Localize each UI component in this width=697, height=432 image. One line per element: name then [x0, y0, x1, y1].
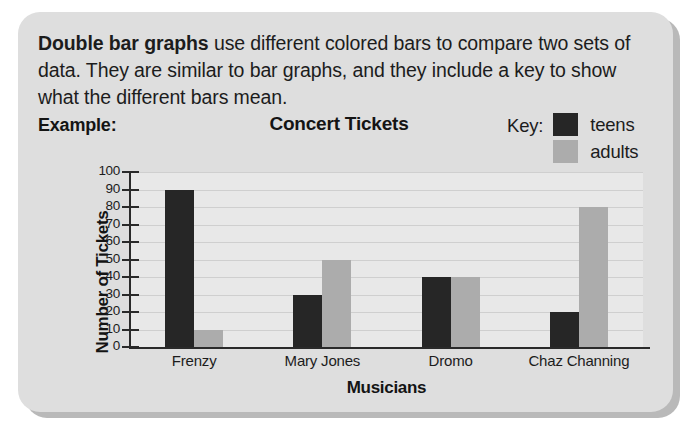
y-axis-tick: [122, 224, 139, 226]
gridline: [130, 172, 643, 173]
y-axis-tick-label: 80: [86, 198, 120, 213]
y-axis-tick-label: 20: [86, 303, 120, 318]
y-axis-tick: [122, 346, 139, 348]
gridline: [130, 190, 643, 191]
chart-title: Concert Tickets: [214, 113, 464, 135]
legend-text-teens: teens: [590, 114, 634, 136]
y-axis-tick-label: 100: [86, 163, 120, 178]
example-label: Example:: [38, 115, 116, 136]
gridline: [130, 277, 643, 278]
gridline: [130, 225, 643, 226]
gridline: [130, 242, 643, 243]
lesson-card: Double bar graphs use different colored …: [18, 12, 673, 412]
double-bar-chart: Number of Tickets 0102030405060708090100…: [36, 160, 676, 412]
x-axis-tick-label: Chaz Channing: [528, 352, 629, 369]
bar-adults-dromo: [451, 277, 480, 347]
y-axis-tick: [122, 206, 139, 208]
x-axis-tick-label: Frenzy: [172, 352, 217, 369]
legend-swatch-teens: [553, 113, 578, 136]
intro-paragraph: Double bar graphs use different colored …: [38, 30, 650, 111]
bar-teens-chaz-channing: [550, 312, 579, 347]
y-axis-tick: [122, 259, 139, 261]
y-axis-tick: [122, 294, 139, 296]
legend-entries: teens adults: [553, 113, 638, 163]
gridline: [130, 207, 643, 208]
y-axis-tick-label: 10: [86, 321, 120, 336]
y-axis-tick-label: 0: [86, 338, 120, 353]
x-axis-tick-label: Dromo: [429, 352, 473, 369]
x-axis-tick-label: Mary Jones: [285, 352, 361, 369]
x-axis-labels: FrenzyMary JonesDromoChaz Channing: [130, 352, 643, 376]
y-axis-labels: 0102030405060708090100: [78, 160, 120, 360]
y-axis-tick: [122, 189, 139, 191]
y-axis-tick-label: 70: [86, 216, 120, 231]
intro-lead: Double bar graphs: [38, 32, 209, 54]
x-axis-line: [129, 347, 650, 349]
gridline: [130, 295, 643, 296]
chart-legend: Key: teens adults: [507, 113, 638, 163]
y-axis-tick: [122, 171, 139, 173]
y-axis-tick-label: 40: [86, 268, 120, 283]
bar-teens-frenzy: [165, 190, 194, 348]
x-axis-title: Musicians: [130, 378, 643, 398]
y-axis-tick: [122, 241, 139, 243]
y-axis-tick: [122, 311, 139, 313]
bar-teens-mary-jones: [293, 295, 322, 348]
gridline: [130, 260, 643, 261]
y-axis-tick-label: 30: [86, 286, 120, 301]
y-axis-tick: [122, 329, 139, 331]
y-axis-tick-label: 50: [86, 251, 120, 266]
plot-area: [130, 172, 643, 347]
legend-label: Key:: [507, 113, 543, 137]
y-axis-tick: [122, 276, 139, 278]
bar-adults-frenzy: [194, 330, 223, 348]
bar-adults-chaz-channing: [579, 207, 608, 347]
bar-adults-mary-jones: [322, 260, 351, 348]
legend-item-teens: teens: [553, 113, 638, 136]
bar-teens-dromo: [422, 277, 451, 347]
y-axis-tick-label: 90: [86, 181, 120, 196]
y-axis-tick-label: 60: [86, 233, 120, 248]
